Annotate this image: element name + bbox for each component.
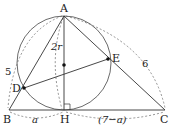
point-E — [106, 57, 110, 61]
label-AH-length: 2r — [50, 41, 63, 52]
geometry-figure: A B H C D E 5 6 2r a (7−a) — [0, 0, 174, 129]
point-center — [62, 63, 66, 67]
label-B: B — [3, 113, 11, 126]
label-BH-length: a — [32, 114, 38, 125]
label-AB-length: 5 — [5, 66, 11, 77]
dashed-arc-AH — [55, 18, 63, 109]
label-E: E — [112, 52, 120, 65]
label-D: D — [12, 82, 21, 95]
label-A: A — [59, 2, 69, 15]
right-angle-marker — [64, 104, 70, 110]
point-D — [22, 86, 26, 90]
label-C: C — [160, 113, 168, 126]
triangle-circle-diagram: A B H C D E 5 6 2r a (7−a) — [0, 0, 174, 129]
label-AC-length: 6 — [142, 58, 148, 69]
label-H: H — [60, 113, 70, 126]
label-HC-length: (7−a) — [98, 114, 127, 125]
